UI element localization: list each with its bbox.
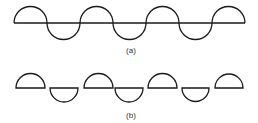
wave-arc-up [212,7,245,23]
wave-arc-up [80,7,113,23]
half-disc-up [215,74,243,88]
half-disc-down [115,88,143,102]
half-disc-up [84,74,113,89]
half-disc-up [148,74,177,89]
half-disc-down [182,88,209,102]
wave-arc-down [179,23,212,40]
figure-a-caption: (a) [126,46,136,55]
figure-b-caption: (b) [126,111,136,120]
diagram-canvas: (a) (b) [0,0,258,123]
half-disc-up [16,74,45,88]
half-disc-down [50,88,78,102]
wave-arc-down [47,23,80,40]
wave-arc-down [113,23,146,40]
figure-b-half-discs [16,74,243,103]
figure-a-wave [14,7,245,40]
wave-arc-up [146,7,179,23]
wave-arc-up [14,7,47,23]
